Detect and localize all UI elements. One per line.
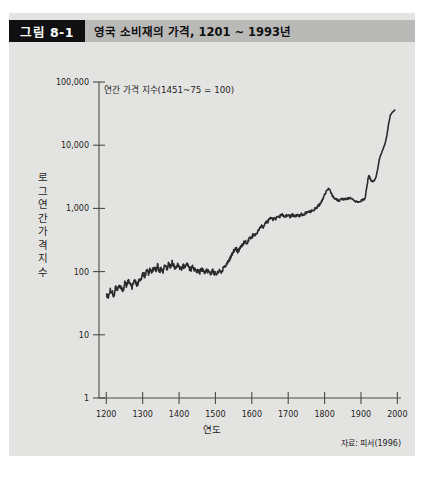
source-note: 자료: 피서(1996): [9, 437, 415, 448]
line-chart: 1101001,00010,000100,000 120013001400150…: [9, 42, 415, 456]
y-tick-label: 10,000: [61, 141, 89, 150]
y-tick-label: 1: [84, 394, 89, 403]
x-tick-label: 1900: [351, 410, 371, 419]
x-tick-label: 1300: [132, 410, 152, 419]
x-axis-ticks: 120013001400150016001700180019002000: [96, 392, 407, 419]
y-tick-label: 100: [74, 268, 89, 277]
x-tick-label: 1700: [278, 410, 298, 419]
figure-number-badge: 그림 8-1: [9, 20, 85, 42]
x-tick-label: 1200: [96, 410, 116, 419]
x-tick-label: 1400: [169, 410, 189, 419]
plot-area: 1101001,00010,000100,000 120013001400150…: [9, 42, 415, 456]
price-index-line: [107, 110, 395, 298]
x-tick-label: 1600: [242, 410, 262, 419]
figure-header-bar: 그림 8-1 영국 소비재의 가격, 1201 ~ 1993년: [9, 20, 415, 42]
x-axis-title: 연도: [9, 422, 415, 436]
figure-title: 영국 소비재의 가격, 1201 ~ 1993년: [85, 20, 291, 42]
y-tick-label: 100,000: [56, 78, 89, 87]
y-tick-label: 10: [79, 331, 89, 340]
x-tick-label: 2000: [387, 410, 407, 419]
figure-panel: 그림 8-1 영국 소비재의 가격, 1201 ~ 1993년 연간 가격 지수…: [9, 13, 415, 456]
x-tick-label: 1500: [205, 410, 225, 419]
y-tick-label: 1,000: [66, 204, 89, 213]
x-tick-label: 1800: [314, 410, 334, 419]
y-axis-ticks: 1101001,00010,000100,000: [56, 78, 105, 403]
